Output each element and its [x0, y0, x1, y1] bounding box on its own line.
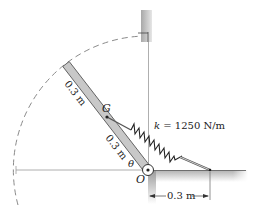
spring-constant-label: k = 1250 N/m: [154, 120, 226, 131]
center-of-mass-point: [105, 115, 108, 118]
pendulum-spring-diagram: 0.3 m 0.3 m G θ O k = 1250 N/m 0.3 m: [0, 0, 258, 214]
spring-k-value: = 1250 N/m: [160, 120, 225, 131]
angle-label: θ: [128, 158, 134, 169]
dimension-label: 0.3 m: [167, 190, 196, 201]
center-of-mass-label: G: [102, 102, 111, 115]
pivot-label: O: [136, 173, 145, 186]
wall-block: [141, 10, 152, 42]
dashed-arc: [13, 36, 148, 205]
diagram-svg: 0.3 m 0.3 m G θ O k = 1250 N/m 0.3 m: [0, 0, 258, 214]
